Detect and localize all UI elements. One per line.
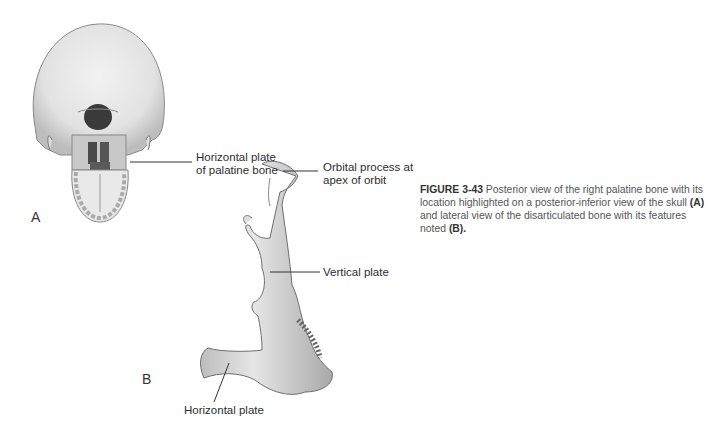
panel-letter-b: B xyxy=(142,371,151,387)
label-line: Horizontal plate xyxy=(196,151,278,164)
label-horizontal-plate: Horizontal plate xyxy=(184,404,264,417)
caption-ref-b: (B). xyxy=(449,223,466,234)
label-line: of palatine bone xyxy=(196,164,278,177)
palatine-bone-illustration xyxy=(201,161,333,394)
label-horizontal-plate-palatine: Horizontal plate of palatine bone xyxy=(196,151,278,177)
figure-number: FIGURE 3-43 xyxy=(420,184,483,195)
label-line: Orbital process at xyxy=(323,161,413,174)
label-orbital-process: Orbital process at apex of orbit xyxy=(323,161,413,187)
label-line: apex of orbit xyxy=(323,174,413,187)
label-vertical-plate: Vertical plate xyxy=(323,266,389,279)
figure-caption: FIGURE 3-43 Posterior view of the right … xyxy=(420,183,709,235)
skull-illustration xyxy=(33,24,164,222)
panel-letter-a: A xyxy=(31,209,40,225)
caption-ref-a: (A) xyxy=(690,197,704,208)
